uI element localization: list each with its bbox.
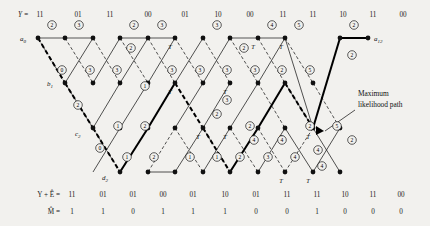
- received-bit: 11: [280, 11, 287, 19]
- path-metric-value: 1: [117, 123, 120, 129]
- path-metric: 2: [240, 44, 249, 53]
- path-metric: 2: [348, 136, 357, 145]
- message-bit: 0: [343, 208, 347, 216]
- path-metric-value: 3: [199, 67, 202, 73]
- trellis-canvas: T T T T T T T T T T T T a0 b1 c2 d2 a12 …: [0, 0, 430, 226]
- path-metric: 3: [113, 66, 122, 75]
- state-label-a0: a0: [20, 35, 27, 44]
- annotation-line-1: Maximum: [358, 89, 389, 98]
- received-sequence-row: Y = 11 01 11 00 01 10 00 11 11 10 11 00: [18, 11, 407, 19]
- message-bit: 1: [315, 208, 319, 216]
- message-bit: 1: [70, 208, 74, 216]
- path-metric: 1: [186, 153, 195, 162]
- path-metric: 2: [348, 51, 357, 60]
- path-metric: 1: [141, 82, 150, 91]
- corrected-bit: 10: [341, 191, 349, 199]
- message-bit: 0: [399, 208, 403, 216]
- received-bit: 11: [37, 11, 44, 19]
- path-metric-value: 4: [321, 163, 324, 169]
- survivor-mark: T: [251, 43, 255, 50]
- path-metric: 2: [74, 101, 83, 110]
- received-bit: 11: [107, 11, 114, 19]
- path-metric: 2: [150, 153, 159, 162]
- state-label-d2: d2: [102, 174, 109, 183]
- message-bit: 0: [371, 208, 375, 216]
- survivor-mark: T: [306, 133, 310, 140]
- survivor-mark: T: [279, 43, 283, 50]
- path-metric-value: 3: [226, 67, 229, 73]
- path-metric: 3: [251, 66, 260, 75]
- path-metric: 4: [318, 162, 327, 171]
- corrected-bit: 10: [221, 191, 229, 199]
- path-metric: 2: [350, 21, 359, 30]
- survivor-mark: T: [223, 88, 227, 95]
- path-metric: 3: [223, 96, 232, 105]
- path-metric-value: 0: [61, 67, 64, 73]
- path-metric-value: 2: [309, 123, 312, 129]
- path-metric: 2: [127, 44, 136, 53]
- path-metric: 0: [58, 66, 67, 75]
- path-metric-value: 2: [133, 22, 136, 28]
- path-metric-value: 3: [116, 67, 119, 73]
- path-metric-value: 2: [243, 45, 246, 51]
- received-bit: 00: [144, 11, 152, 19]
- path-metric-value: 2: [153, 154, 156, 160]
- path-metric-value: 1: [126, 154, 129, 160]
- path-metric: 2: [141, 122, 150, 131]
- path-metric: 2: [236, 153, 245, 162]
- path-metric-value: 5: [336, 123, 339, 129]
- path-metric-value: 4: [281, 137, 284, 143]
- survivor-mark: T: [196, 133, 200, 140]
- path-metric-value: 3: [226, 97, 229, 103]
- path-metric: 4: [268, 21, 277, 30]
- path-metric-value: 4: [317, 147, 320, 153]
- corrected-bit: 00: [159, 191, 167, 199]
- path-metric-value: 2: [144, 123, 147, 129]
- annotation-line-2: likelihood path: [358, 100, 403, 109]
- path-metric: 4: [314, 146, 323, 155]
- path-metric: 3: [264, 153, 273, 162]
- path-metric-layer: 2323345222203333332513221224425012112344…: [48, 21, 359, 171]
- corrected-bit: 01: [99, 191, 107, 199]
- message-bit: 0: [285, 208, 289, 216]
- path-metric: 5: [295, 21, 304, 30]
- received-bit: 01: [74, 11, 82, 19]
- path-metric-value: 3: [89, 67, 92, 73]
- path-metric-value: 0: [99, 145, 102, 151]
- path-metric-value: 2: [239, 154, 242, 160]
- path-metric: 3: [196, 66, 205, 75]
- received-bit: 00: [246, 11, 254, 19]
- message-bit: 0: [131, 208, 135, 216]
- path-metric: 1: [123, 153, 132, 162]
- survivor-mark: T: [279, 177, 283, 184]
- path-metric: 4: [291, 153, 300, 162]
- state-label-c2: c2: [75, 130, 81, 139]
- message-label: M̂ =: [48, 206, 60, 216]
- path-metric-value: 2: [249, 123, 252, 129]
- path-metric-value: 1: [189, 154, 192, 160]
- path-metric: 3: [223, 66, 232, 75]
- corrected-bit: 11: [69, 191, 76, 199]
- path-metric: 2: [48, 21, 57, 30]
- path-metric: 3: [168, 66, 177, 75]
- corrected-bit: 01: [252, 191, 260, 199]
- path-metric-value: 3: [78, 22, 81, 28]
- received-bit: 00: [399, 11, 407, 19]
- path-metric: 2: [246, 122, 255, 131]
- state-label-a12: a12: [374, 35, 383, 44]
- corrected-bit: 11: [314, 191, 321, 199]
- message-bits-row: M̂ = 1 1 0 1 1 1 0 0 1 0 0 0: [48, 206, 403, 216]
- message-bit: 1: [223, 208, 227, 216]
- path-metric: 2: [213, 110, 222, 119]
- received-bit: 10: [214, 11, 222, 19]
- message-bit: 1: [191, 208, 195, 216]
- path-metric-value: 3: [161, 22, 164, 28]
- path-metric: 2: [306, 122, 315, 131]
- message-bit: 1: [161, 208, 165, 216]
- corrected-bit: 11: [370, 191, 377, 199]
- path-metric: 3: [158, 21, 167, 30]
- received-label: Y =: [18, 11, 29, 19]
- path-metric: 0: [96, 144, 105, 153]
- path-metric: 1: [213, 153, 222, 162]
- path-metric: 1: [114, 122, 123, 131]
